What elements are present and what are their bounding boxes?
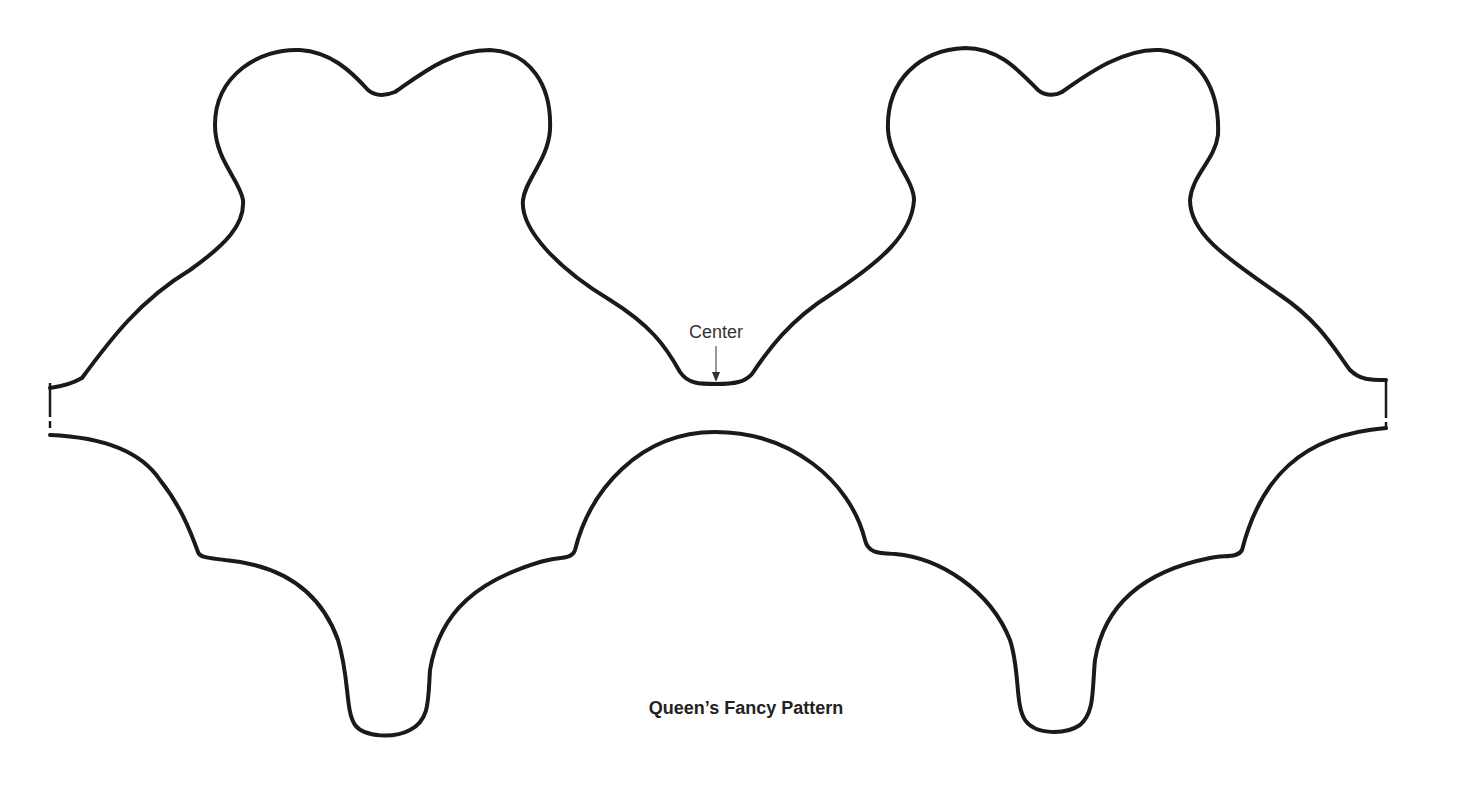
center-label: Center [683,321,749,343]
pattern-title: Queen’s Fancy Pattern [630,697,862,719]
center-arrow-head-icon [712,372,720,382]
pattern-drawing [0,0,1468,794]
lower-template-outline [50,428,1386,735]
pattern-page: Center Queen’s Fancy Pattern [0,0,1468,794]
